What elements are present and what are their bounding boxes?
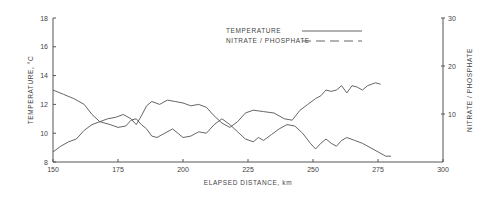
- y-axis-label: TEMPERATURE, °C: [27, 56, 34, 125]
- nitrate-phosphate-line: [53, 83, 381, 152]
- y-tick-label: 16: [40, 43, 48, 50]
- x-tick-label: 175: [112, 166, 124, 173]
- y-tick-label: 8: [44, 159, 48, 166]
- x-axis-label: ELAPSED DISTANCE, km: [204, 179, 292, 186]
- y-tick-label: 18: [40, 15, 48, 22]
- y2-tick-label: 30: [448, 15, 456, 22]
- x-tick-label: 300: [437, 166, 449, 173]
- x-tick-label: 250: [307, 166, 319, 173]
- y2-tick-label: 20: [448, 63, 456, 70]
- legend: TEMPERATURE NITRATE / PHOSPHATE: [226, 27, 362, 44]
- y-tick-label: 10: [40, 130, 48, 137]
- series: [53, 83, 391, 156]
- y-tick-label: 12: [40, 101, 48, 108]
- y-tick-label: 14: [40, 72, 48, 79]
- legend-nitrate-label: NITRATE / PHOSPHATE: [226, 37, 310, 44]
- x-tick-label: 200: [177, 166, 189, 173]
- y2-axis-label: NITRATE / PHOSPHATE: [466, 48, 473, 132]
- y2-tick-label: 10: [448, 111, 456, 118]
- x-tick-label: 275: [372, 166, 384, 173]
- x-tick-label: 150: [47, 166, 59, 173]
- legend-temperature-label: TEMPERATURE: [226, 27, 281, 34]
- chart: 15017520022525027530081012141618102030 T…: [0, 0, 496, 197]
- x-tick-label: 225: [242, 166, 254, 173]
